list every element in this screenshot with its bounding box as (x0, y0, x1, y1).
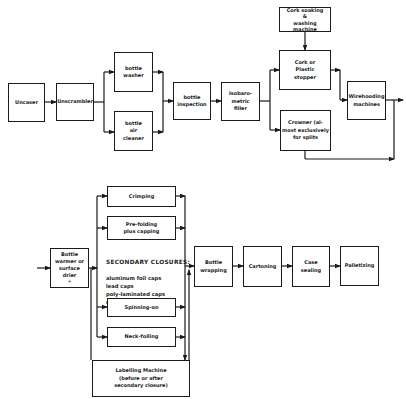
crowner-box: Crowner (al- most exclusively for splits (280, 110, 331, 151)
bottle-warmer-box: Bottle warmer or surface drier * (50, 248, 89, 288)
bottle-wrapping-box: Bottle wrapping (194, 246, 233, 287)
wirehooding-box: Wirehooding machines (347, 81, 386, 120)
crimping-label: Crimping (129, 193, 155, 201)
spinning-on-box: Spinning-on (107, 298, 176, 317)
uncaser-label: Uncaser (15, 99, 38, 107)
cartoning-label: Cartoning (249, 263, 277, 271)
uncaser-box: Uncaser (8, 83, 45, 122)
pre-folding-box: Pre-folding plus capping (107, 216, 176, 240)
cork-stopper-box: Cork or Plastic stopper (279, 50, 331, 90)
palletizing-label: Palletizing (345, 262, 375, 270)
bottle-warmer-label: Bottle warmer or surface drier * (52, 251, 87, 286)
bottle-inspection-label: bottle inspection (177, 94, 206, 109)
flowchart-canvas: Uncaser Unscrambler bottle washer bottle… (0, 0, 406, 399)
bottle-air-cleaner-box: bottle air cleaner (114, 111, 153, 151)
labelling-machine-label: Labelling Machine (before or after secon… (114, 367, 168, 390)
connector-lines (0, 0, 406, 399)
pre-folding-label: Pre-folding plus capping (124, 221, 160, 236)
cork-stopper-label: Cork or Plastic stopper (294, 59, 316, 82)
isobarometric-filler-box: Isobaro- metric filler (221, 82, 260, 121)
neck-foiling-box: Neck-foiling (107, 327, 176, 347)
bottle-washer-label: bottle washer (123, 65, 143, 80)
bottle-air-cleaner-label: bottle air cleaner (123, 120, 144, 143)
cork-soaking-box: Cork soaking & washing machine (279, 7, 331, 32)
cartoning-box: Cartoning (243, 246, 282, 287)
crimping-box: Crimping (107, 186, 176, 207)
secondary-closures-title: SECONDARY CLOSURES: (106, 258, 190, 266)
spinning-on-label: Spinning-on (125, 304, 159, 312)
neck-foiling-label: Neck-foiling (125, 333, 159, 341)
unscrambler-label: Unscrambler (57, 98, 93, 106)
wirehooding-label: Wirehooding machines (349, 93, 385, 108)
labelling-machine-box: Labelling Machine (before or after secon… (92, 360, 190, 397)
bottle-washer-box: bottle washer (114, 52, 153, 92)
isobarometric-filler-label: Isobaro- metric filler (229, 90, 252, 113)
case-sealing-label: Case sealing (301, 259, 321, 274)
palletizing-box: Palletizing (340, 246, 379, 286)
bottle-wrapping-label: Bottle wrapping (200, 259, 226, 274)
bottle-inspection-box: bottle inspection (173, 82, 211, 120)
case-sealing-box: Case sealing (292, 246, 330, 287)
crowner-label: Crowner (al- most exclusively for splits (282, 119, 329, 142)
unscrambler-box: Unscrambler (56, 83, 94, 121)
cork-soaking-label: Cork soaking & washing machine (281, 7, 329, 33)
